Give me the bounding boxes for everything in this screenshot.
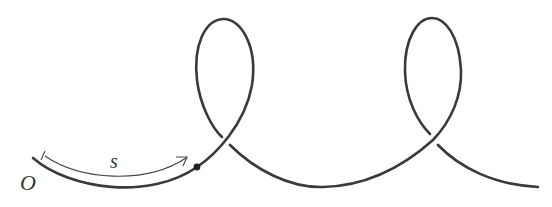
curve-diagram: O s: [0, 0, 552, 207]
marked-point: [194, 164, 201, 171]
arc-start-tick: [41, 151, 45, 160]
main-curve-segment-3: [438, 145, 538, 187]
origin-label: O: [20, 170, 36, 196]
curve-svg: [0, 0, 552, 207]
main-curve-segment-1: [33, 19, 253, 187]
main-curve-segment-2: [230, 18, 461, 187]
arc-length-label: s: [110, 150, 118, 173]
